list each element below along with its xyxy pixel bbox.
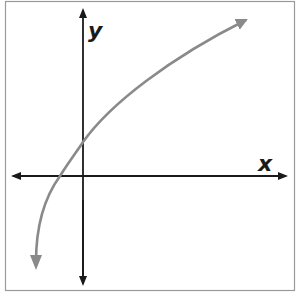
x-axis-label: x — [257, 151, 273, 176]
function-curve — [36, 20, 246, 262]
curve-bottom-arrow-icon — [30, 255, 42, 270]
graph-frame — [6, 2, 295, 291]
graph-canvas: y x — [0, 0, 298, 303]
graph-figure: y x — [0, 0, 298, 303]
y-axis-label: y — [88, 18, 104, 43]
